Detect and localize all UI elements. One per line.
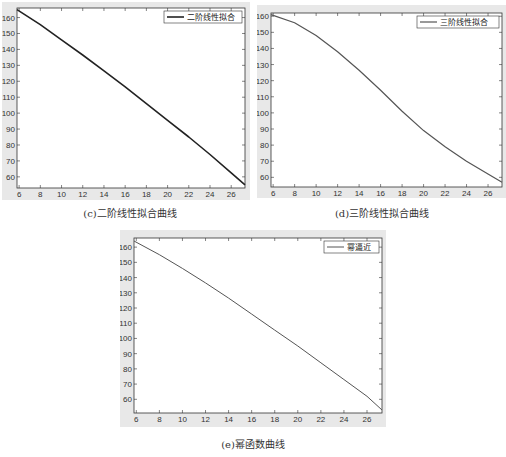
y-tick-label: 110 [2,93,15,102]
y-tick-label: 110 [120,319,133,328]
x-tick-label: 14 [224,415,233,424]
y-tick-label: 120 [120,304,133,313]
y-tick-label: 160 [2,14,16,23]
x-tick-label: 20 [163,190,172,199]
y-tick-label: 100 [2,109,16,118]
x-tick-label: 26 [363,415,372,424]
y-tick-label: 130 [257,61,270,70]
x-tick-label: 10 [57,190,66,199]
caption-c: (c)二阶线性拟合曲线 [70,205,190,220]
chart-d: 6810121416182022242660708090100110120130… [257,5,506,198]
x-tick-label: 22 [441,189,450,198]
y-tick-label: 90 [123,350,132,359]
y-tick-label: 150 [257,28,270,37]
caption-d: (d)三阶线性拟合曲线 [322,205,442,220]
x-tick-label: 14 [355,189,364,198]
x-tick-label: 8 [157,415,162,424]
y-tick-label: 140 [2,45,16,54]
x-tick-label: 6 [134,415,139,424]
x-tick-label: 16 [247,415,256,424]
y-tick-label: 70 [6,157,15,166]
x-tick-label: 12 [201,415,210,424]
legend-label: 二阶线性拟合 [187,12,235,22]
y-tick-label: 160 [257,12,270,21]
x-tick-label: 12 [333,189,342,198]
plot-area [271,13,502,187]
x-tick-label: 18 [398,189,407,198]
x-tick-label: 22 [184,190,193,199]
legend-label: 幂逼近 [347,242,371,252]
y-tick-label: 90 [260,125,269,134]
x-tick-label: 20 [419,189,428,198]
y-tick-label: 130 [2,61,16,70]
x-tick-label: 12 [78,190,87,199]
plot-area [134,238,382,413]
x-tick-label: 6 [17,190,22,199]
y-tick-label: 120 [2,77,16,86]
y-tick-label: 90 [6,125,15,134]
x-tick-label: 26 [227,190,236,199]
x-tick-label: 22 [316,415,325,424]
plot-area [17,8,245,188]
legend-label: 三阶线性拟合 [440,17,488,27]
x-tick-label: 10 [178,415,187,424]
x-tick-label: 24 [206,190,215,199]
x-tick-label: 16 [376,189,385,198]
x-tick-label: 26 [484,189,493,198]
x-tick-label: 24 [462,189,471,198]
x-tick-label: 10 [312,189,321,198]
x-tick-label: 16 [121,190,130,199]
figure-e-panel: 6810121416182022242660708090100110120130… [120,230,386,427]
x-tick-label: 6 [271,189,276,198]
x-tick-label: 8 [38,190,43,199]
y-tick-label: 70 [260,157,269,166]
x-tick-label: 18 [270,415,279,424]
y-tick-label: 110 [257,93,270,102]
y-tick-label: 130 [120,289,133,298]
y-tick-label: 60 [123,395,132,404]
x-tick-label: 24 [339,415,348,424]
y-tick-label: 100 [257,109,270,118]
y-tick-label: 140 [120,274,133,283]
x-tick-label: 8 [292,189,297,198]
y-tick-label: 140 [257,44,270,53]
figure-c: 6810121416182022242660708090100110120130… [2,2,250,200]
y-tick-label: 70 [123,380,132,389]
y-tick-label: 80 [123,365,132,374]
y-tick-label: 150 [2,29,16,38]
x-tick-label: 14 [100,190,109,199]
x-tick-label: 20 [293,415,302,424]
y-tick-label: 80 [6,141,15,150]
caption-e: (e)幂函数曲线 [193,436,313,451]
y-tick-label: 60 [6,173,15,182]
chart-e: 6810121416182022242660708090100110120130… [120,230,386,427]
y-tick-label: 80 [260,141,269,150]
chart-c: 6810121416182022242660708090100110120130… [2,2,250,200]
x-tick-label: 18 [142,190,151,199]
y-tick-label: 120 [257,77,270,86]
figure-d: 6810121416182022242660708090100110120130… [257,5,506,198]
y-tick-label: 150 [120,258,133,267]
y-tick-label: 160 [120,243,133,252]
y-tick-label: 100 [120,334,133,343]
y-tick-label: 60 [260,173,269,182]
